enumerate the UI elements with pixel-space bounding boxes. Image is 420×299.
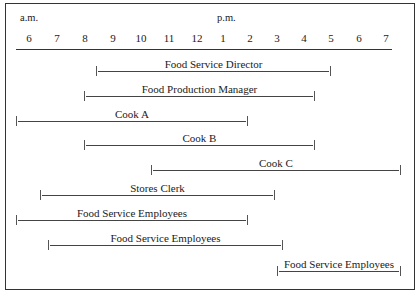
bar-line xyxy=(153,170,399,171)
tick-label: 6 xyxy=(26,32,32,44)
bar-label: Cook B xyxy=(84,132,315,144)
tick-label: 1 xyxy=(220,32,226,44)
bar-line xyxy=(18,121,246,122)
am-label: a.m. xyxy=(20,12,38,23)
tick-label: 9 xyxy=(110,32,116,44)
bar-label: Cook A xyxy=(16,108,248,120)
shift-bar: Cook B xyxy=(84,131,315,147)
bar-label: Food Service Director xyxy=(96,58,331,70)
bar-line xyxy=(86,96,313,97)
tick-label: 6 xyxy=(356,32,362,44)
bar-label: Stores Clerk xyxy=(40,182,275,194)
tick-label: 2 xyxy=(247,32,253,44)
bar-label: Cook C xyxy=(151,157,401,169)
bar-label: Food Production Manager xyxy=(84,83,315,95)
shift-bar: Cook C xyxy=(151,156,401,172)
tick-label: 3 xyxy=(274,32,280,44)
bar-line xyxy=(42,195,273,196)
bar-label: Food Service Employees xyxy=(48,232,283,244)
shift-bar: Food Service Employees xyxy=(277,257,401,273)
bar-line xyxy=(279,271,399,272)
bar-label: Food Service Employees xyxy=(16,207,248,219)
shift-bar: Cook A xyxy=(16,107,248,123)
bar-label: Food Service Employees xyxy=(277,258,401,270)
time-axis-line xyxy=(16,49,392,50)
shift-bar: Food Service Director xyxy=(96,57,331,73)
bar-line xyxy=(86,145,313,146)
tick-label: 4 xyxy=(301,32,307,44)
shift-bar: Food Service Employees xyxy=(48,231,283,247)
tick-label: 7 xyxy=(383,32,389,44)
shift-bar: Food Production Manager xyxy=(84,82,315,98)
bar-line xyxy=(18,220,246,221)
tick-label: 12 xyxy=(192,32,203,44)
tick-label: 7 xyxy=(54,32,60,44)
shift-bar: Food Service Employees xyxy=(16,206,248,222)
tick-label: 5 xyxy=(328,32,334,44)
tick-label: 11 xyxy=(164,32,175,44)
bar-line xyxy=(50,245,281,246)
tick-label: 8 xyxy=(82,32,88,44)
shift-bar: Stores Clerk xyxy=(40,181,275,197)
bar-line xyxy=(98,71,329,72)
tick-label: 10 xyxy=(136,32,147,44)
pm-label: p.m. xyxy=(217,12,236,23)
